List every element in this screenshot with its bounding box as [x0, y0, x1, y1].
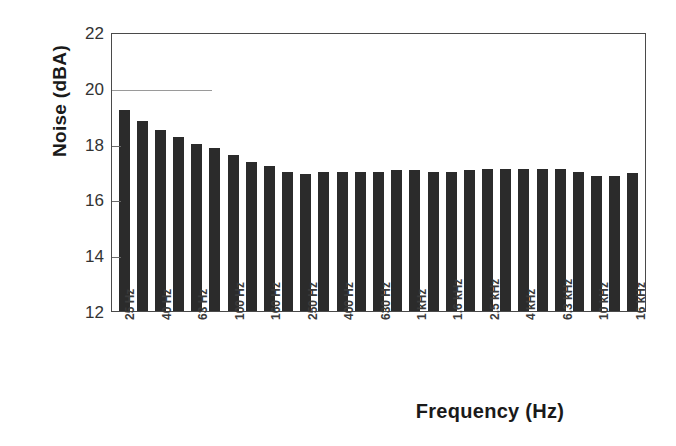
x-tick-label: 250 Hz [306, 282, 320, 320]
bar [428, 172, 439, 312]
bar [155, 130, 166, 311]
bar-slot [442, 34, 460, 311]
x-tick-label: 100 Hz [233, 282, 247, 320]
x-tick-label: 25 Hz [123, 289, 137, 320]
bar-slot [133, 34, 151, 311]
bar-slot [388, 34, 406, 311]
x-tick-label: 2.5 kHz [488, 279, 502, 320]
x-tick-label: 63 Hz [196, 289, 210, 320]
bar-slot [406, 34, 424, 311]
bar-slot [115, 34, 133, 311]
chart-page: Noise (dBA) 121416182022 25 Hz40 Hz63 Hz… [0, 0, 676, 446]
bar-slot [151, 34, 169, 311]
bar-slot [478, 34, 496, 311]
x-tick-label: 10 kHz [597, 282, 611, 320]
bar [246, 162, 257, 311]
bar-slot [533, 34, 551, 311]
x-tick-label: 160 Hz [269, 282, 283, 320]
y-axis-tick-labels: 121416182022 [62, 33, 104, 312]
y-axis-tick-mark [112, 146, 121, 147]
y-tick-label: 14 [62, 248, 104, 265]
bar-slot [315, 34, 333, 311]
x-tick-label: 4 kHz [524, 289, 538, 320]
x-tick-label: 1.6 kHz [451, 279, 465, 320]
bar [537, 169, 548, 311]
y-tick-label: 20 [62, 80, 104, 97]
bar-slot [333, 34, 351, 311]
bar [137, 121, 148, 311]
y-axis-tick-mark [112, 90, 212, 91]
bar [173, 137, 184, 311]
bar-slot [260, 34, 278, 311]
bar [209, 148, 220, 311]
x-axis-tick-labels: 25 Hz40 Hz63 Hz100 Hz160 Hz250 Hz400 Hz6… [111, 312, 646, 392]
y-axis-tick-mark [112, 201, 121, 202]
bar-slot [606, 34, 624, 311]
y-tick-label: 18 [62, 136, 104, 153]
y-axis-tick-mark [112, 257, 121, 258]
bar-slot [624, 34, 642, 311]
bar-slot [424, 34, 442, 311]
bar-slot [369, 34, 387, 311]
x-tick-label: 400 Hz [342, 282, 356, 320]
bar [464, 170, 475, 311]
bar [318, 172, 329, 312]
plot-area [111, 33, 646, 312]
x-tick-label: 630 Hz [379, 282, 393, 320]
bar-slot [515, 34, 533, 311]
bar-slot [242, 34, 260, 311]
y-tick-label: 16 [62, 192, 104, 209]
bar-slot [569, 34, 587, 311]
y-tick-label: 12 [62, 304, 104, 321]
bar [282, 172, 293, 312]
bar-slot [460, 34, 478, 311]
bar [119, 110, 130, 311]
x-tick-label: 1 kHz [415, 289, 429, 320]
bar-slot [279, 34, 297, 311]
bar-series [112, 34, 645, 311]
x-tick-label: 16 kHz [634, 282, 648, 320]
bar-slot [188, 34, 206, 311]
y-tick-label: 22 [62, 25, 104, 42]
x-tick-label: 6.3 kHz [561, 279, 575, 320]
bar [355, 172, 366, 312]
x-axis-title: Frequency (Hz) [320, 400, 660, 423]
bar-slot [170, 34, 188, 311]
bar-slot [497, 34, 515, 311]
bar-slot [551, 34, 569, 311]
bar [191, 144, 202, 311]
bar-slot [587, 34, 605, 311]
bar-slot [206, 34, 224, 311]
x-tick-label: 40 Hz [160, 289, 174, 320]
bar-slot [297, 34, 315, 311]
bar-slot [351, 34, 369, 311]
bar-slot [224, 34, 242, 311]
